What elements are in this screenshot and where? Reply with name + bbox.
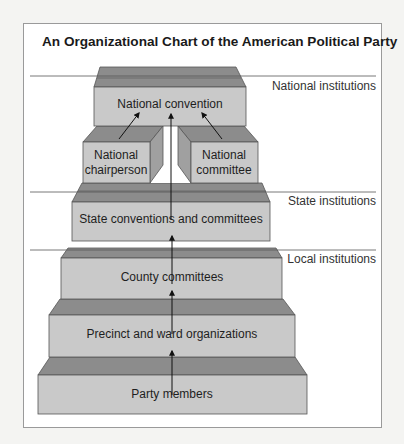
label-committee-2: committee — [196, 163, 252, 177]
level-label-state: State institutions — [288, 194, 376, 208]
level-label-national: National institutions — [272, 79, 376, 93]
level-label-local: Local institutions — [287, 252, 376, 266]
org-chart: Party members Precinct and ward organiza… — [0, 0, 404, 444]
label-chairperson-1: National — [94, 148, 138, 162]
label-national-convention: National convention — [117, 97, 222, 111]
label-chairperson-2: chairperson — [85, 163, 148, 177]
label-committee-1: National — [202, 148, 246, 162]
